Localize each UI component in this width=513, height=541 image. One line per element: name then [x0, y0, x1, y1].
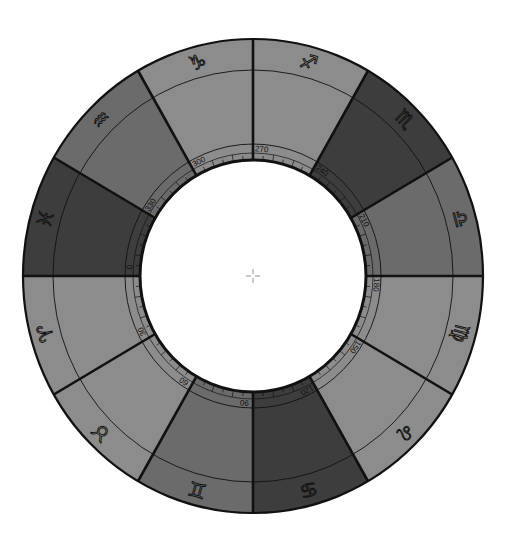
degree-label: 270 — [255, 144, 269, 154]
zodiac-wheel: ♑♒♓♈♉♊♋♌♍♎♏♐ 270300330030609012015018021… — [0, 0, 513, 541]
degree-label: 180 — [371, 278, 381, 292]
center-disc — [140, 160, 366, 392]
degree-label: 90 — [239, 398, 249, 408]
